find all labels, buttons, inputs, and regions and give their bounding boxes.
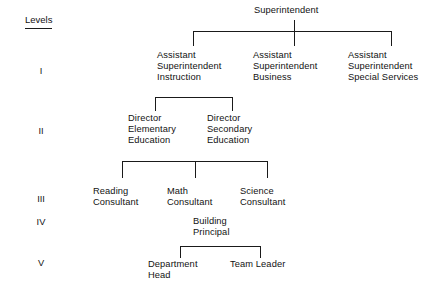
level-label-iv: IV [21, 217, 61, 228]
org-node-asst-supt-business: Assistant Superintendent Business [253, 50, 317, 84]
level-label-i: I [21, 66, 61, 77]
connector-level2-drop-right [232, 97, 233, 111]
org-node-superintendent: Superintendent [254, 5, 318, 16]
org-node-reading-consultant: Reading Consultant [93, 186, 138, 208]
org-node-team-leader: Team Leader [230, 259, 285, 270]
connector-level1-drop-right [391, 31, 392, 46]
connector-level2-drop-left [155, 97, 156, 111]
level-label-iii: III [21, 194, 61, 205]
org-node-director-secondary: Director Secondary Education [207, 113, 252, 147]
org-node-department-head: Department Head [148, 259, 198, 281]
connector-level5-bus [180, 246, 261, 247]
org-node-math-consultant: Math Consultant [167, 186, 212, 208]
connector-level1-riser [294, 20, 295, 32]
connector-level3-drop-left [122, 161, 123, 178]
levels-column-header: Levels [25, 14, 52, 29]
org-node-director-elementary: Director Elementary Education [128, 113, 176, 147]
org-chart-canvas: Levels IIIIIIIVV SuperintendentAssistant… [0, 0, 445, 295]
org-node-asst-supt-special-services: Assistant Superintendent Special Service… [348, 50, 418, 84]
connector-level5-drop-left [180, 246, 181, 258]
level-label-v: V [21, 258, 61, 269]
connector-level1-drop-left [193, 31, 194, 46]
connector-level5-drop-right [260, 246, 261, 258]
org-node-science-consultant: Science Consultant [240, 186, 285, 208]
org-node-building-principal: Building Principal [193, 216, 230, 238]
connector-level3-drop-right [267, 161, 268, 178]
connector-level3-drop-middle [195, 161, 196, 178]
connector-level2-bus [155, 97, 233, 98]
level-label-ii: II [21, 126, 61, 137]
connector-level1-bus [193, 31, 392, 32]
org-node-asst-supt-instruction: Assistant Superintendent Instruction [157, 50, 221, 84]
connector-level1-drop-middle [294, 31, 295, 46]
